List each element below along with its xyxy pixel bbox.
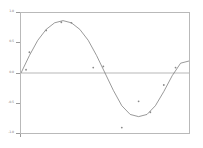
y-tick-mark xyxy=(16,42,20,43)
y-tick-mark xyxy=(16,103,20,104)
scatter-point xyxy=(45,30,47,32)
y-tick-label: -0.5 xyxy=(8,101,14,104)
scatter-point xyxy=(29,51,31,53)
plot-svg xyxy=(21,13,189,133)
scatter-point xyxy=(25,69,27,71)
scatter-point xyxy=(163,84,165,86)
y-tick-mark xyxy=(16,133,20,134)
plot-area xyxy=(20,12,190,134)
scatter-point xyxy=(121,127,123,129)
chart-figure: 1.0 0.5 0.0 -0.5 -1.0 xyxy=(0,0,203,148)
y-tick-mark xyxy=(16,12,20,13)
x-axis-tick-origin xyxy=(20,134,21,137)
scatter-point xyxy=(92,67,94,69)
y-tick-label: 1.0 xyxy=(9,10,14,13)
scatter-point xyxy=(175,67,177,69)
scatter-point xyxy=(138,100,140,102)
scatter-point xyxy=(102,66,104,68)
scatter-point xyxy=(60,21,62,23)
scatter-point xyxy=(71,22,73,24)
scatter-points xyxy=(25,21,176,128)
y-tick-label: 0.0 xyxy=(9,71,14,74)
y-tick-label: -1.0 xyxy=(8,131,14,134)
y-tick-label: 0.5 xyxy=(9,40,14,43)
y-tick-mark xyxy=(16,73,20,74)
scatter-point xyxy=(149,111,151,113)
fit-curve xyxy=(21,21,189,117)
